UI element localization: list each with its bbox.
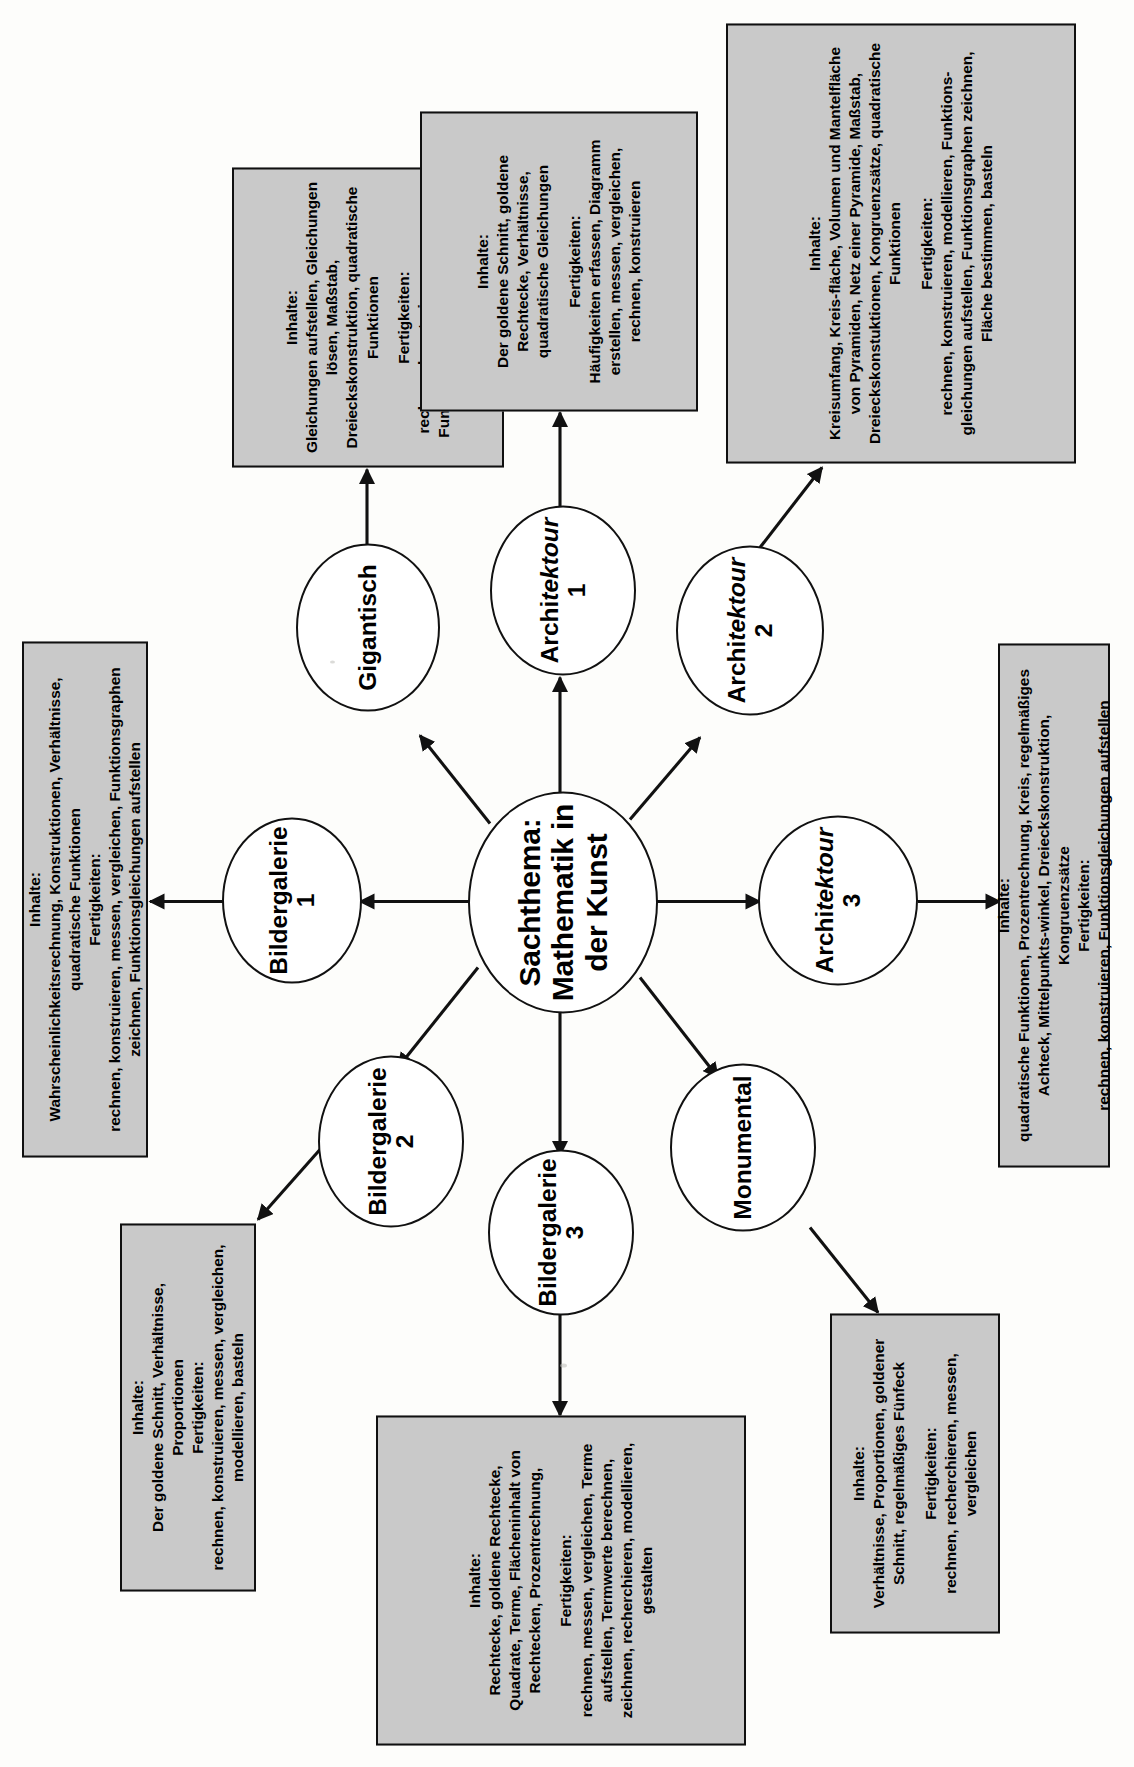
box-body-inhalte: Kreisumfang, Kreis-fläche, Volumen und M… (825, 37, 905, 449)
box-heading-inhalte: Inhalte: (282, 181, 302, 453)
center-node-sachthema[interactable]: Sachthema: Mathematik in der Kunst (468, 791, 658, 1013)
box-heading-inhalte: Inhalte: (25, 655, 45, 1143)
box-body-fertigkeiten: Häufigkeiten erfassen, Diagramm erstelle… (585, 125, 645, 397)
node-label: Monumental (729, 1075, 756, 1219)
box-heading-fertigkeiten: Fertigkeiten: (1074, 657, 1094, 1153)
box-heading-fertigkeiten: Fertigkeiten: (394, 181, 414, 453)
box-heading-inhalte: Inhalte: (994, 657, 1014, 1153)
node-bildergalerie-3[interactable]: Bildergalerie 3 (488, 1149, 634, 1315)
box-heading-fertigkeiten: Fertigkeiten: (188, 1237, 208, 1577)
info-box-architektour-1: Inhalte: Der goldene Schnitt, goldene Re… (420, 111, 698, 411)
box-body-fertigkeiten: rechnen, konstruieren, modellieren, Funk… (937, 37, 997, 449)
node-label: Bildergalerie 2 (364, 1057, 419, 1225)
box-heading-fertigkeiten: Fertigkeiten: (921, 1327, 941, 1619)
node-architektour-3[interactable]: Architektour 3 (758, 815, 918, 985)
mindmap-canvas: Sachthema: Mathematik in der Kunst Bilde… (0, 0, 1134, 1767)
box-body-fertigkeiten: rechnen, konstruieren, messen, vergleich… (105, 655, 145, 1143)
node-monumental[interactable]: Monumental (670, 1063, 816, 1231)
box-spacer (545, 1429, 556, 1731)
info-box-bildergalerie-1: Inhalte: Wahrscheinlichkeitsrechnung, Ko… (22, 641, 148, 1157)
node-label: Bildergalerie 1 (265, 819, 320, 981)
center-node-label: Sachthema: Mathematik in der Kunst (513, 803, 614, 1000)
box-body-inhalte: Gleichungen aufstellen, Gleichungen löse… (302, 181, 382, 453)
box-body-inhalte: Wahrscheinlichkeitsrechnung, Konstruktio… (45, 655, 85, 1143)
box-body-fertigkeiten: rechnen, konstruieren, messen, vergleich… (208, 1237, 248, 1577)
info-box-monumental: Inhalte: Verhältnisse, Proportionen, gol… (830, 1313, 1000, 1633)
box-spacer (910, 1327, 921, 1619)
info-box-goldener-schnitt: Inhalte: Der goldene Schnitt, Verhältnis… (120, 1223, 256, 1591)
node-label: Bildergalerie 3 (534, 1151, 589, 1313)
scan-speck (560, 1363, 567, 1367)
info-box-architektour-2: Inhalte: Kreisumfang, Kreis-fläche, Volu… (726, 23, 1076, 463)
box-heading-fertigkeiten: Fertigkeiten: (565, 125, 585, 397)
node-label: Architektour 1 (536, 507, 591, 673)
node-bildergalerie-1[interactable]: Bildergalerie 1 (222, 817, 362, 983)
box-heading-fertigkeiten: Fertigkeiten: (85, 655, 105, 1143)
box-heading-inhalte: Inhalte: (849, 1327, 869, 1619)
box-body-inhalte: quadratische Funktionen, Prozentrechnung… (1014, 657, 1074, 1153)
box-body-inhalte: Der goldene Schnitt, Verhältnisse, Propo… (148, 1237, 188, 1577)
box-heading-inhalte: Inhalte: (465, 1429, 485, 1731)
node-architektour-2[interactable]: Architektour 2 (676, 545, 824, 715)
node-gigantisch[interactable]: Gigantisch (296, 543, 440, 711)
box-heading-fertigkeiten: Fertigkeiten: (556, 1429, 576, 1731)
box-heading-inhalte: Inhalte: (473, 125, 493, 397)
box-heading-inhalte: Inhalte: (128, 1237, 148, 1577)
box-body-inhalte: Der goldene Schnitt, goldene Rechtecke, … (493, 125, 553, 397)
info-box-architektour-3: Inhalte: quadratische Funktionen, Prozen… (998, 643, 1110, 1167)
box-body-fertigkeiten: rechnen, recherchieren, messen, vergleic… (941, 1327, 981, 1619)
box-spacer (554, 125, 565, 397)
box-spacer (906, 37, 917, 449)
box-body-fertigkeiten: rechnen, konstruieren, Funktionsgleichun… (1094, 657, 1114, 1153)
scan-speck (900, 1524, 904, 1527)
node-label: Architektour 3 (811, 817, 866, 983)
info-box-bildergalerie-3: Inhalte: Rechtecke, goldene Rechtecke, Q… (376, 1415, 746, 1745)
box-spacer (383, 181, 394, 453)
node-bildergalerie-2[interactable]: Bildergalerie 2 (318, 1055, 464, 1227)
box-body-inhalte: Rechtecke, goldene Rechtecke, Quadrate, … (485, 1429, 545, 1731)
scan-speck (330, 660, 335, 663)
box-body-fertigkeiten: rechnen, messen, vergleichen, Terme aufs… (577, 1429, 657, 1731)
box-heading-fertigkeiten: Fertigkeiten: (917, 37, 937, 449)
node-label: Gigantisch (354, 564, 381, 691)
scanned-page: Sachthema: Mathematik in der Kunst Bilde… (0, 0, 1134, 1767)
box-body-inhalte: Verhältnisse, Proportionen, goldener Sch… (869, 1327, 909, 1619)
box-heading-inhalte: Inhalte: (805, 37, 825, 449)
node-label: Architektour 2 (723, 547, 778, 713)
node-architektour-1[interactable]: Architektour 1 (490, 505, 636, 675)
